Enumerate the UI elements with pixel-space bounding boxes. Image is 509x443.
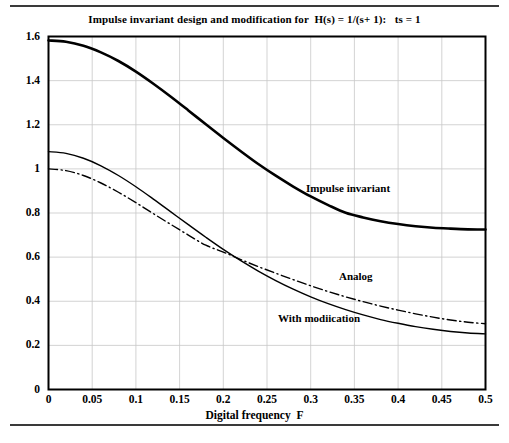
y-tick-label: 1.2 (0, 119, 40, 131)
x-tick-label: 0.05 (68, 394, 116, 406)
y-tick-label: 0.8 (0, 207, 40, 219)
curve-label-analog: Analog (339, 271, 373, 282)
x-tick-label: 0.35 (330, 394, 378, 406)
x-tick-label: 0 (25, 394, 73, 406)
x-tick-label: 0.3 (287, 394, 335, 406)
x-tick-label: 0.15 (156, 394, 204, 406)
x-tick-label: 0.4 (374, 394, 422, 406)
x-axis-title: Digital frequency F (0, 409, 509, 421)
x-tick-label: 0.2 (199, 394, 247, 406)
curve-label-impulse-invariant: Impulse invariant (306, 183, 390, 194)
y-tick-label: 0.2 (0, 339, 40, 351)
plot-area (0, 0, 509, 443)
curve-label-with-modiication: With modiication (278, 313, 360, 324)
grid-lines (49, 37, 486, 390)
y-tick-label: 1 (0, 163, 40, 175)
figure-container: Impulse invariant design and modificatio… (0, 0, 509, 443)
x-tick-label: 0.5 (462, 394, 509, 406)
y-tick-label: 1.6 (0, 31, 40, 43)
y-tick-label: 1.4 (0, 75, 40, 87)
x-tick-label: 0.1 (112, 394, 160, 406)
x-tick-label: 0.25 (243, 394, 291, 406)
y-tick-label: 0.4 (0, 295, 40, 307)
x-tick-label: 0.45 (418, 394, 466, 406)
y-tick-label: 0.6 (0, 251, 40, 263)
